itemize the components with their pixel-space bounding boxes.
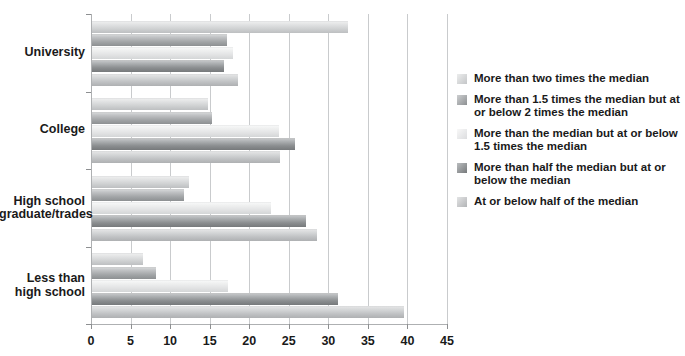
gridline (289, 14, 290, 324)
x-axis-tick-label: 35 (361, 334, 375, 348)
bar (92, 34, 227, 46)
y-axis-category-label: Less than high school (0, 272, 85, 299)
x-axis-tick (368, 324, 369, 329)
x-axis-tick (210, 324, 211, 329)
legend-item-label: More than 1.5 times the median but at or… (474, 93, 681, 120)
gridline (368, 14, 369, 324)
gridline (407, 14, 408, 324)
bar (92, 293, 338, 305)
legend-item-label: More than the median but at or below 1.5… (474, 127, 681, 154)
legend-swatch-series-2 (457, 95, 467, 105)
x-axis-tick (289, 324, 290, 329)
bar (92, 125, 279, 137)
legend-item[interactable]: At or below half of the median (457, 195, 681, 209)
legend-item[interactable]: More than half the median but at or belo… (457, 161, 681, 188)
x-axis-tick-label: 10 (163, 334, 177, 348)
y-axis-tick (86, 247, 91, 248)
bar (92, 253, 143, 265)
x-axis-tick (407, 324, 408, 329)
bar (92, 306, 404, 318)
bar (92, 47, 233, 59)
legend-item-label: At or below half of the median (474, 195, 638, 209)
x-axis-tick (131, 324, 132, 329)
bar (92, 229, 317, 241)
x-axis-tick-label: 30 (321, 334, 335, 348)
plot-area: UniversityCollegeHigh school graduate/tr… (91, 14, 447, 324)
legend-item-label: More than half the median but at or belo… (474, 161, 681, 188)
bar (92, 176, 189, 188)
gridline (447, 14, 448, 324)
bar (92, 74, 238, 86)
legend-item-label: More than two times the median (474, 72, 649, 86)
bar (92, 21, 348, 33)
legend-swatch-series-3 (457, 129, 467, 139)
chart-legend: More than two times the medianMore than … (457, 72, 681, 215)
gridline (249, 14, 250, 324)
bar (92, 112, 212, 124)
legend-item[interactable]: More than 1.5 times the median but at or… (457, 93, 681, 120)
x-axis-tick-label: 25 (282, 334, 296, 348)
y-axis-tick (86, 324, 91, 325)
x-axis-tick (91, 324, 92, 329)
y-axis-category-label: High school graduate/trades (0, 194, 85, 221)
legend-item[interactable]: More than the median but at or below 1.5… (457, 127, 681, 154)
bar (92, 98, 208, 110)
x-axis-tick (170, 324, 171, 329)
x-axis-tick-label: 0 (88, 334, 95, 348)
y-axis-category-label: College (0, 124, 85, 138)
y-axis-tick (86, 169, 91, 170)
y-axis-category-label: University (0, 46, 85, 60)
bar (92, 267, 156, 279)
bar-chart: UniversityCollegeHigh school graduate/tr… (0, 0, 685, 356)
bar (92, 215, 306, 227)
bar (92, 202, 271, 214)
y-axis-tick (86, 92, 91, 93)
y-axis-tick (86, 14, 91, 15)
x-axis-line (91, 324, 447, 325)
x-axis-tick-label: 15 (203, 334, 217, 348)
x-axis-tick-label: 20 (242, 334, 256, 348)
bar (92, 151, 280, 163)
bar (92, 138, 295, 150)
x-axis-tick-label: 40 (400, 334, 414, 348)
legend-item[interactable]: More than two times the median (457, 72, 681, 86)
bar (92, 280, 228, 292)
legend-swatch-series-1 (457, 74, 467, 84)
bar (92, 60, 224, 72)
x-axis-tick-label: 5 (127, 334, 134, 348)
bar (92, 189, 184, 201)
x-axis-tick (328, 324, 329, 329)
x-axis-tick (249, 324, 250, 329)
legend-swatch-series-5 (457, 197, 467, 207)
legend-swatch-series-4 (457, 163, 467, 173)
x-axis-tick-label: 45 (440, 334, 454, 348)
gridline (328, 14, 329, 324)
x-axis-tick (447, 324, 448, 329)
